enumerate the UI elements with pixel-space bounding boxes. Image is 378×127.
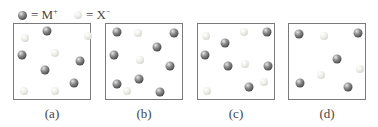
legend-anion: = X− bbox=[74, 7, 111, 23]
anion-sphere-icon bbox=[20, 87, 28, 95]
cation-sphere-icon bbox=[344, 83, 353, 92]
anion-sphere-icon bbox=[320, 32, 328, 40]
cation-sphere-icon bbox=[264, 62, 273, 71]
anion-sphere-icon bbox=[203, 87, 211, 95]
anion-sphere-icon bbox=[84, 32, 92, 40]
panel-label: (b) bbox=[105, 106, 183, 122]
cation-sphere-icon bbox=[110, 51, 119, 60]
cation-sphere-icon bbox=[18, 51, 27, 60]
anion-sphere-icon bbox=[51, 87, 59, 95]
anion-sphere-icon bbox=[317, 71, 325, 79]
cation-sphere-icon bbox=[296, 79, 305, 88]
legend-anion-text: = X− bbox=[86, 7, 111, 23]
cation-sphere-icon bbox=[170, 29, 179, 38]
cation-sphere-icon bbox=[224, 62, 233, 71]
anion-sphere-icon bbox=[202, 32, 210, 40]
anion-sphere-icon bbox=[51, 49, 59, 57]
panel-label: (a) bbox=[13, 106, 91, 122]
dark-sphere-icon bbox=[18, 11, 27, 20]
anion-sphere-icon bbox=[136, 56, 144, 64]
cation-sphere-icon bbox=[166, 62, 175, 71]
panel-box-b bbox=[105, 23, 183, 100]
cation-sphere-icon bbox=[221, 39, 230, 48]
panel-box-a bbox=[13, 23, 91, 100]
cation-sphere-icon bbox=[245, 83, 254, 92]
panel-box-c bbox=[197, 23, 275, 100]
cation-sphere-icon bbox=[135, 75, 144, 84]
legend-cation-text: = M+ bbox=[31, 7, 58, 23]
light-sphere-icon bbox=[74, 11, 82, 19]
anion-sphere-icon bbox=[260, 78, 268, 86]
cation-sphere-icon bbox=[153, 43, 162, 52]
cation-sphere-icon bbox=[113, 28, 122, 37]
cation-sphere-icon bbox=[333, 55, 342, 64]
anion-sphere-icon bbox=[356, 65, 364, 73]
cation-sphere-icon bbox=[201, 51, 210, 60]
cation-sphere-icon bbox=[295, 30, 304, 39]
anion-sphere-icon bbox=[134, 29, 142, 37]
anion-sphere-icon bbox=[241, 60, 249, 68]
cation-sphere-icon bbox=[156, 88, 165, 97]
cation-sphere-icon bbox=[41, 66, 50, 75]
legend-cation: = M+ bbox=[18, 7, 58, 23]
cation-sphere-icon bbox=[354, 29, 363, 38]
panel-label: (c) bbox=[197, 106, 275, 122]
anion-sphere-icon bbox=[240, 28, 248, 36]
cation-sphere-icon bbox=[263, 28, 272, 37]
panel-box-d bbox=[288, 23, 366, 100]
anion-sphere-icon bbox=[123, 87, 131, 95]
cation-sphere-icon bbox=[76, 57, 85, 66]
cation-sphere-icon bbox=[113, 80, 122, 89]
cation-sphere-icon bbox=[43, 27, 52, 36]
cation-sphere-icon bbox=[70, 79, 79, 88]
anion-sphere-icon bbox=[21, 34, 29, 42]
panel-label: (d) bbox=[288, 106, 366, 122]
legend: = M+ = X− bbox=[0, 0, 378, 22]
